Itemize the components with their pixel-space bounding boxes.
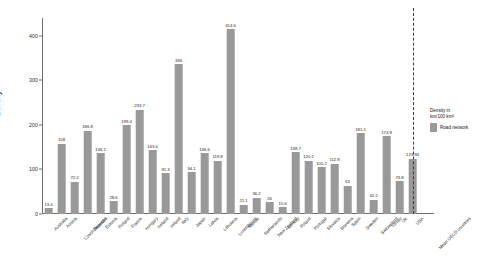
bar[interactable]	[161, 173, 170, 214]
chart-legend: Density in km/100 km² Road network	[430, 108, 492, 132]
bar-slot[interactable]: 119.8	[211, 18, 224, 214]
bar-slot[interactable]: 174.9	[380, 18, 393, 214]
bar[interactable]	[265, 202, 274, 214]
bar-value-label: 414.6	[225, 23, 236, 28]
bar-slot[interactable]: 112.8	[328, 18, 341, 214]
x-tick-label: Turkey	[389, 216, 402, 229]
y-axis-title: Density	[0, 91, 1, 116]
bar-slot[interactable]: 94.1	[185, 18, 198, 214]
x-tick-label: Finland	[117, 216, 131, 230]
x-tick-label: Italy	[180, 216, 189, 225]
mean-separator-dashed-line	[413, 8, 414, 214]
bar-value-label: 112.8	[329, 157, 339, 162]
bar[interactable]	[70, 182, 79, 214]
bar[interactable]	[174, 64, 183, 214]
legend-entry-label: Road network	[440, 125, 468, 130]
bar-slot[interactable]: 36.2	[250, 18, 263, 214]
bar[interactable]	[304, 161, 313, 214]
bar-slot[interactable]: 158	[55, 18, 68, 214]
bar-slot[interactable]: 136.1	[94, 18, 107, 214]
bar-slot[interactable]: 186.8	[81, 18, 94, 214]
bar[interactable]	[369, 200, 378, 214]
bar[interactable]	[122, 125, 131, 214]
bar-value-label: 73.8	[395, 175, 403, 180]
bar-value-label: 119.8	[212, 154, 222, 159]
bar-value-label: 32.2	[369, 193, 377, 198]
bar-value-label: 21.1	[239, 198, 247, 203]
bar-value-label: 26	[267, 196, 272, 201]
bar[interactable]	[226, 29, 235, 214]
bar-slot[interactable]: 181.1	[354, 18, 367, 214]
x-tick-label: Sweden	[364, 216, 379, 231]
bar-slot[interactable]: 136.6	[198, 18, 211, 214]
bar-slot[interactable]: 414.6	[224, 18, 237, 214]
x-tick-label: Lithuania	[222, 216, 238, 232]
x-tick-label: UK	[400, 216, 408, 224]
bar-series: 13.415872.2186.8136.128.6199.4233.7143.6…	[42, 18, 432, 214]
x-tick-label: Mexico	[247, 216, 260, 229]
bar[interactable]	[135, 110, 144, 214]
bar-value-label: 120.1	[303, 154, 314, 159]
bar-slot[interactable]: 72.2	[68, 18, 81, 214]
y-tick-label: 400	[29, 33, 38, 39]
bar[interactable]	[109, 201, 118, 214]
bar[interactable]	[278, 207, 287, 214]
bar-slot[interactable]: 336	[172, 18, 185, 214]
bar-value-label: 13.4	[44, 202, 52, 207]
bar[interactable]	[200, 153, 209, 214]
bar-value-label: 174.9	[381, 130, 392, 135]
bar[interactable]	[317, 167, 326, 214]
x-tick-label: USA	[414, 216, 424, 226]
bar-value-label: 36.2	[252, 191, 260, 196]
bar[interactable]	[330, 164, 339, 214]
bar-value-label: 336	[175, 58, 182, 63]
bar-value-label: 91.3	[161, 167, 169, 172]
bar-value-label: 15.6	[278, 201, 286, 206]
bar-value-label: 186.8	[82, 124, 93, 129]
bar[interactable]	[343, 186, 352, 214]
y-tick-label: 100	[29, 166, 38, 172]
x-tick-label: Japan	[194, 216, 206, 228]
x-tick-label: Hungary	[143, 216, 158, 231]
bar[interactable]	[252, 198, 261, 214]
bar-slot[interactable]: 138.7	[289, 18, 302, 214]
bar[interactable]	[57, 144, 66, 214]
x-tick-label: Portugal	[312, 216, 327, 231]
bar-slot[interactable]: 91.3	[159, 18, 172, 214]
bar-slot[interactable]: 13.4	[42, 18, 55, 214]
bar-slot[interactable]: 73.8	[393, 18, 406, 214]
legend-title: Density in km/100 km²	[430, 108, 492, 120]
road-network-density-chart: 0100200300400 Density 13.415872.2186.813…	[0, 0, 492, 280]
bar-value-label: 136.1	[95, 147, 106, 152]
bar[interactable]	[395, 181, 404, 214]
bar-slot[interactable]: 28.6	[107, 18, 120, 214]
bar-slot[interactable]: 21.1	[237, 18, 250, 214]
x-tick-label: Slovakia	[325, 216, 340, 231]
bar-slot[interactable]: 15.6	[276, 18, 289, 214]
bar[interactable]	[291, 152, 300, 214]
bar[interactable]	[187, 172, 196, 214]
bar[interactable]	[213, 161, 222, 214]
x-tick-label: Mean OECD countries	[437, 216, 471, 250]
bar[interactable]	[382, 136, 391, 214]
bar-slot[interactable]: 233.7	[133, 18, 146, 214]
bar-slot[interactable]: 143.6	[146, 18, 159, 214]
bar-slot[interactable]: 32.2	[367, 18, 380, 214]
bar-value-label: 72.2	[70, 175, 78, 180]
bar-value-label: 28.6	[109, 195, 117, 200]
bar-slot[interactable]: 26	[263, 18, 276, 214]
bar[interactable]	[83, 131, 92, 214]
bar-value-label: 136.6	[199, 147, 210, 152]
bar-slot[interactable]: 120.1	[302, 18, 315, 214]
x-tick-label: Poland	[298, 216, 311, 229]
bar[interactable]	[239, 205, 248, 214]
bar[interactable]	[148, 150, 157, 214]
bar-slot[interactable]: 63	[341, 18, 354, 214]
bar-value-label: 143.6	[147, 144, 158, 149]
bar-slot[interactable]: 105.2	[315, 18, 328, 214]
bar-value-label: 233.7	[134, 103, 145, 108]
bar-slot[interactable]: 199.4	[120, 18, 133, 214]
bar-value-label: 63	[345, 179, 350, 184]
bar[interactable]	[356, 133, 365, 214]
bar[interactable]	[96, 153, 105, 214]
